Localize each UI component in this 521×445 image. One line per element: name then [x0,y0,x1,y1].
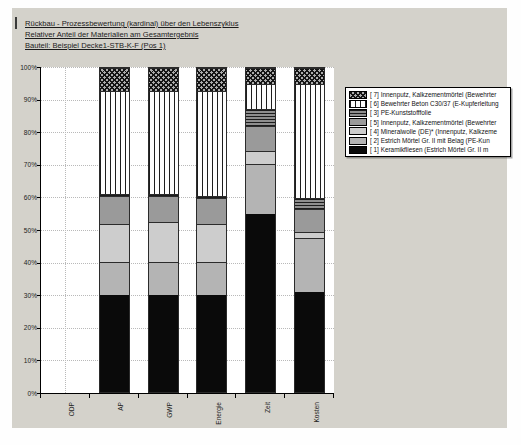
legend-swatch-series-5 [349,118,367,126]
y-axis-label: 0% [12,390,37,397]
legend-row-series-2: [ 2] Estrich Mörtel Gr. II mit Belag (PE… [348,136,508,145]
bar-segment-series-1 [149,295,178,392]
y-axis-label: 80% [12,129,37,136]
y-axis-tick [37,295,40,296]
legend-row-series-1: [ 1] Keramikfliesen (Estrich Mörtel Gr. … [348,145,508,154]
legend-row-series-3: [ 3] PE-Kunststofffolie [348,108,508,117]
stacked-bar-kosten [294,67,325,393]
y-axis-tick [37,165,40,166]
stacked-bar-gwp [148,67,179,393]
y-axis-tick [37,263,40,264]
y-axis-tick [37,100,40,101]
bar-segment-series-6 [197,91,226,196]
bar-segment-series-7 [295,68,324,84]
x-axis-tick [284,394,285,398]
legend-swatch-series-1 [349,146,367,154]
x-axis-label-zeit: Zeit [264,402,271,413]
x-axis-tick [187,394,188,398]
report-page: Rückbau - Prozessbewertung (kardinal) üb… [0,0,521,445]
x-axis-tick [138,394,139,398]
bar-segment-series-1 [197,295,226,392]
y-axis-tick [37,360,40,361]
x-axis-tick [333,394,334,398]
horizontal-gridline [41,165,334,166]
legend-label-series-1: [ 1] Keramikfliesen (Estrich Mörtel Gr. … [370,146,488,153]
legend-label-series-7: [ 7] Innenputz, Kalkzementmörtel (Bewehr… [370,91,496,98]
stacked-bar-energie [196,67,227,393]
x-axis-label-kosten: Kosten [313,402,320,423]
y-axis-tick [37,197,40,198]
y-axis-label: 100% [12,64,37,71]
y-axis-label: 30% [12,292,37,299]
horizontal-gridline [41,100,334,101]
bar-segment-series-1 [295,292,324,392]
x-axis-tick [89,394,90,398]
horizontal-gridline [41,263,334,264]
stacked-bar-ap [99,67,130,393]
bar-segment-series-5 [295,209,324,232]
bar-segment-series-4 [149,222,178,263]
bar-segment-series-5 [149,196,178,222]
bar-segment-series-3 [246,109,275,127]
legend-swatch-series-7 [349,91,367,99]
legend-swatch-series-4 [349,127,367,135]
y-axis-tick [37,132,40,133]
bar-segment-series-7 [149,68,178,91]
x-axis-label-odp: ODP [68,402,75,416]
legend-row-series-7: [ 7] Innenputz, Kalkzementmörtel (Bewehr… [348,90,508,99]
y-axis-label: 10% [12,357,37,364]
bar-segment-series-6 [295,84,324,197]
x-axis-label-gwp: GWP [166,402,173,418]
horizontal-gridline [41,132,334,133]
bar-segment-series-6 [100,91,129,195]
y-axis-label: 60% [12,194,37,201]
bar-segment-series-7 [197,68,226,91]
bar-segment-series-3 [295,198,324,209]
y-axis-label: 90% [12,96,37,103]
legend-row-series-5: [ 5] Innenputz, Kalkzementmörtel (Bewehr… [348,118,508,127]
horizontal-gridline [41,67,334,68]
legend-swatch-series-2 [349,137,367,145]
x-axis-tick [235,394,236,398]
bar-segment-series-5 [197,198,226,224]
legend-swatch-series-3 [349,109,367,117]
chart-report-panel: Rückbau - Prozessbewertung (kardinal) üb… [12,8,507,428]
legend-row-series-4: [ 4] Mineralwolle (DE)* (Innenputz, Kalk… [348,127,508,136]
y-axis-label: 20% [12,324,37,331]
horizontal-gridline [41,328,334,329]
y-axis-label: 50% [12,227,37,234]
bar-segment-series-4 [197,224,226,263]
legend-label-series-2: [ 2] Estrich Mörtel Gr. II mit Belag (PE… [370,137,490,144]
bar-segment-series-2 [197,262,226,294]
legend-label-series-5: [ 5] Innenputz, Kalkzementmörtel (Bewehr… [370,119,496,126]
bar-segment-series-5 [100,196,129,224]
vertical-gridline [65,67,66,393]
plot-area [40,67,334,394]
bar-segment-series-6 [246,84,275,108]
y-axis-label: 70% [12,161,37,168]
legend-swatch-series-6 [349,100,367,108]
bar-segment-series-1 [100,295,129,392]
x-axis-tick [40,394,41,398]
chart-title-main: Rückbau - Prozessbewertung (kardinal) üb… [25,19,365,30]
bar-segment-series-2 [149,262,178,294]
bar-segment-series-2 [246,164,275,214]
horizontal-gridline [41,295,334,296]
x-axis-label-energie: Energie [215,402,222,425]
bar-segment-series-4 [246,151,275,164]
bar-segment-series-2 [295,238,324,291]
y-axis-label: 40% [12,259,37,266]
chart-legend: [ 7] Innenputz, Kalkzementmörtel (Bewehr… [345,87,511,157]
horizontal-gridline [41,197,334,198]
bar-segment-series-7 [100,68,129,91]
y-axis-tick [37,328,40,329]
horizontal-gridline [41,230,334,231]
x-axis-label-ap: AP [117,402,124,411]
bar-segment-series-1 [246,214,275,392]
bar-segment-series-2 [100,262,129,294]
legend-label-series-4: [ 4] Mineralwolle (DE)* (Innenputz, Kalk… [370,128,497,135]
y-axis-tick [37,230,40,231]
bar-segment-series-5 [246,126,275,150]
bar-segment-series-4 [100,224,129,263]
y-axis-tick [37,67,40,68]
